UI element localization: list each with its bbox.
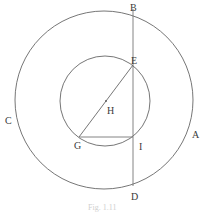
label-c: C xyxy=(5,115,12,126)
label-b: B xyxy=(130,2,137,13)
label-h: H xyxy=(107,105,114,116)
label-i: I xyxy=(139,141,142,152)
label-d: D xyxy=(131,191,138,202)
outer-circle xyxy=(15,11,193,189)
center-point-h xyxy=(105,100,107,102)
figure-caption: Fig. 1.11 xyxy=(88,203,116,212)
label-e: E xyxy=(131,55,137,66)
label-a: A xyxy=(192,129,200,140)
label-g: G xyxy=(74,140,81,151)
inner-circle xyxy=(60,56,150,146)
geometry-diagram: B E H C A G I D Fig. 1.11 xyxy=(0,0,201,212)
